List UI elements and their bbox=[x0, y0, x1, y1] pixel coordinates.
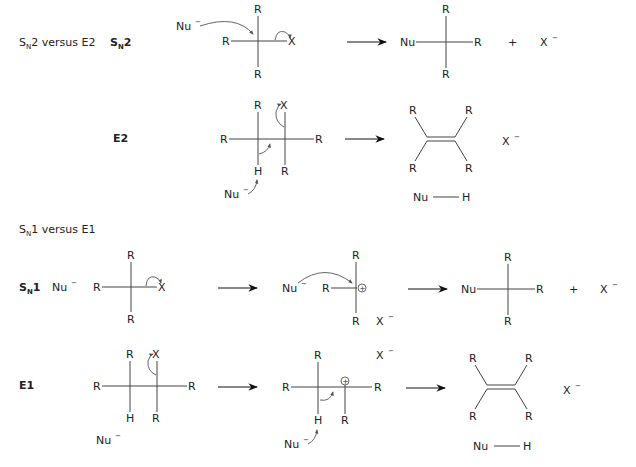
e2-reactant: R R X R H R Nu − bbox=[220, 99, 323, 201]
sn2-reactant: Nu − R R X R bbox=[176, 3, 296, 81]
svg-text:−: − bbox=[243, 186, 249, 194]
svg-text:H: H bbox=[254, 165, 262, 178]
svg-text:−: − bbox=[195, 18, 201, 26]
svg-text:R: R bbox=[281, 165, 289, 178]
svg-text:X: X bbox=[563, 384, 571, 397]
svg-text:R: R bbox=[352, 315, 360, 328]
svg-text:−: − bbox=[303, 436, 309, 444]
svg-text:R: R bbox=[220, 133, 228, 146]
svg-text:R: R bbox=[254, 68, 262, 81]
svg-text:R: R bbox=[409, 162, 417, 175]
svg-text:X: X bbox=[288, 35, 296, 48]
curly-arrow-icon bbox=[320, 392, 333, 400]
svg-text:X: X bbox=[376, 315, 384, 328]
svg-text:X: X bbox=[376, 349, 384, 362]
svg-text:X: X bbox=[600, 283, 608, 296]
svg-text:R: R bbox=[254, 99, 262, 112]
svg-text:Nu: Nu bbox=[224, 188, 239, 201]
e2-label: E2 bbox=[113, 132, 128, 145]
svg-text:X: X bbox=[152, 348, 160, 361]
svg-text:E2: E2 bbox=[113, 132, 128, 145]
sn2-product: Nu R R R + X − bbox=[400, 3, 558, 81]
svg-text:Nu: Nu bbox=[413, 191, 428, 204]
svg-text:R: R bbox=[474, 36, 482, 49]
e1-carbocation: R R R H R + Nu − X − bbox=[282, 347, 394, 451]
svg-text:R: R bbox=[93, 380, 101, 393]
svg-text:R: R bbox=[525, 410, 533, 423]
svg-text:SN1: SN1 bbox=[19, 281, 40, 296]
svg-text:+: + bbox=[508, 36, 517, 49]
svg-text:−: − bbox=[388, 347, 394, 355]
svg-text:Nu: Nu bbox=[473, 440, 488, 453]
section-title-sn1-e1: SN1 versus E1 bbox=[19, 223, 95, 238]
svg-text:R: R bbox=[504, 315, 512, 328]
svg-text:SN2 versus E2: SN2 versus E2 bbox=[19, 36, 95, 51]
svg-text:R: R bbox=[314, 349, 322, 362]
svg-text:R: R bbox=[504, 251, 512, 264]
svg-text:R: R bbox=[127, 313, 135, 326]
svg-text:R: R bbox=[465, 104, 473, 117]
curly-arrow-icon bbox=[308, 430, 317, 444]
e1-label: E1 bbox=[19, 379, 34, 392]
svg-text:Nu: Nu bbox=[52, 281, 67, 294]
svg-text:X: X bbox=[158, 281, 166, 294]
svg-text:SN2: SN2 bbox=[110, 36, 131, 51]
svg-text:−: − bbox=[612, 281, 618, 289]
svg-text:R: R bbox=[465, 162, 473, 175]
svg-text:R: R bbox=[525, 352, 533, 365]
svg-text:R: R bbox=[127, 249, 135, 262]
svg-text:Nu: Nu bbox=[400, 36, 415, 49]
curly-arrow-icon bbox=[248, 180, 257, 194]
svg-text:R: R bbox=[152, 412, 160, 425]
section-title-sn2-e2: SN2 versus E2 bbox=[19, 36, 95, 51]
svg-text:X: X bbox=[280, 99, 288, 112]
svg-text:R: R bbox=[442, 3, 450, 16]
e1-reactant: R R X R H R Nu − bbox=[93, 348, 196, 447]
svg-text:−: − bbox=[575, 382, 581, 390]
svg-text:R: R bbox=[222, 35, 230, 48]
e1-product: R R R R X − Nu H bbox=[469, 352, 581, 453]
svg-text:−: − bbox=[71, 279, 77, 287]
svg-text:Nu: Nu bbox=[96, 434, 111, 447]
svg-text:H: H bbox=[314, 414, 322, 427]
svg-text:E1: E1 bbox=[19, 379, 34, 392]
mechanism-diagram: SN2 versus E2 SN2 Nu − R R X R Nu R R R … bbox=[0, 0, 636, 467]
svg-text:R: R bbox=[322, 282, 330, 295]
sn1-reactant: Nu − R R X R bbox=[52, 249, 166, 326]
sn2-label: SN2 bbox=[110, 36, 131, 51]
svg-text:H: H bbox=[462, 191, 470, 204]
svg-text:H: H bbox=[126, 412, 134, 425]
sn1-carbocation: Nu − R R R + X − bbox=[282, 249, 394, 328]
svg-text:R: R bbox=[469, 410, 477, 423]
svg-text:−: − bbox=[388, 313, 394, 321]
curly-arrow-icon bbox=[259, 144, 270, 154]
curly-arrow-icon bbox=[200, 22, 253, 35]
svg-text:Nu: Nu bbox=[282, 282, 297, 295]
svg-text:R: R bbox=[442, 68, 450, 81]
svg-text:−: − bbox=[115, 432, 121, 440]
svg-text:H: H bbox=[523, 440, 531, 453]
svg-text:+: + bbox=[569, 283, 578, 296]
svg-text:Nu: Nu bbox=[176, 20, 191, 33]
svg-text:R: R bbox=[409, 104, 417, 117]
svg-text:−: − bbox=[552, 34, 558, 42]
svg-text:R: R bbox=[126, 348, 134, 361]
sn1-product: Nu R R R + X − bbox=[461, 251, 618, 328]
sn1-label: SN1 bbox=[19, 281, 40, 296]
svg-text:R: R bbox=[352, 249, 360, 262]
svg-text:−: − bbox=[301, 280, 307, 288]
svg-text:R: R bbox=[341, 414, 349, 427]
svg-text:R: R bbox=[282, 381, 290, 394]
svg-text:R: R bbox=[374, 381, 382, 394]
svg-text:+: + bbox=[360, 285, 366, 293]
e2-product: R R R R X − Nu H bbox=[409, 104, 520, 204]
svg-text:SN1 versus E1: SN1 versus E1 bbox=[19, 223, 95, 238]
svg-text:R: R bbox=[469, 352, 477, 365]
svg-text:X: X bbox=[502, 135, 510, 148]
svg-text:+: + bbox=[343, 378, 349, 386]
svg-text:Nu: Nu bbox=[461, 283, 476, 296]
svg-text:−: − bbox=[514, 133, 520, 141]
svg-text:R: R bbox=[254, 3, 262, 16]
svg-text:X: X bbox=[540, 36, 548, 49]
svg-text:R: R bbox=[93, 281, 101, 294]
